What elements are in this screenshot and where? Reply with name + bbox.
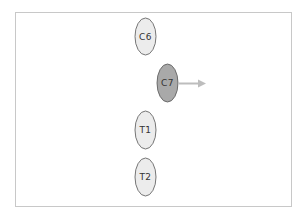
vertebra-c6-label: C6 [139, 32, 152, 42]
vertebra-t1-label: T1 [138, 125, 151, 135]
vertebra-t2: T2 [135, 158, 156, 196]
displacement-arrow [179, 80, 206, 88]
vertebra-c7: C7 [157, 64, 178, 102]
arrow-right-icon [198, 80, 206, 88]
vertebra-t1: T1 [135, 111, 156, 149]
vertebra-c6: C6 [135, 18, 156, 55]
vertebra-t2-label: T2 [138, 172, 151, 182]
vertebra-c7-label: C7 [161, 78, 174, 88]
spine-diagram: C6 C7 T1 T2 [0, 0, 305, 219]
